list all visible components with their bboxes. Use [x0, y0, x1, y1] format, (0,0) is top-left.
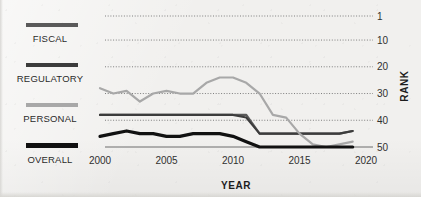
y-tick-label: 1	[377, 11, 383, 22]
y-tick-label: 30	[377, 88, 389, 99]
y-tick-labels: 11020304050	[377, 11, 389, 153]
x-tick-label: 2005	[155, 155, 178, 166]
x-tick-label: 2020	[355, 155, 378, 166]
series-line-regulatory	[100, 115, 353, 134]
y-axis-title: RANK	[399, 70, 410, 101]
y-tick-label: 40	[377, 115, 389, 126]
x-tick-labels: 20002005201020152020	[89, 155, 378, 166]
y-tick-label: 20	[377, 61, 389, 72]
line-chart: 11020304050 20002005201020152020 YEAR RA…	[0, 0, 421, 197]
chart-canvas: FISCAL REGULATORY PERSONAL OVERALL 11020…	[0, 0, 421, 197]
series-lines	[100, 77, 353, 147]
x-tick-label: 2010	[222, 155, 245, 166]
y-tick-label: 50	[377, 142, 389, 153]
gridlines	[105, 16, 373, 147]
x-tick-label: 2015	[288, 155, 311, 166]
x-axis-title: YEAR	[221, 180, 251, 191]
series-line-fiscal	[100, 115, 353, 134]
y-tick-label: 10	[377, 35, 389, 46]
x-tick-label: 2000	[89, 155, 112, 166]
chart-svg: 11020304050 20002005201020152020 YEAR RA…	[0, 0, 421, 197]
